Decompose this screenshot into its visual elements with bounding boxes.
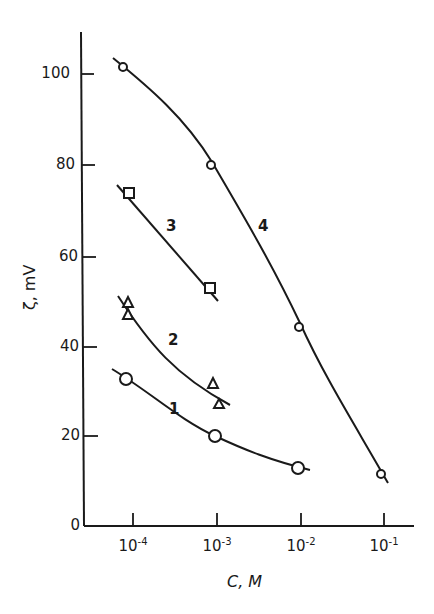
y-tick-label-80: 80 [35,155,75,173]
y-tick-label-100: 100 [30,64,70,82]
x-tick-label-1e-4: 10-4 [108,536,158,555]
series-2 [118,296,230,408]
y-tick-label-40: 40 [39,337,79,355]
y-tick-label-60: 60 [38,247,78,265]
y-tick-label-0: 0 [40,516,80,534]
curve-label-2: 2 [168,331,178,349]
series-4 [113,58,388,483]
y-tick-label-20: 20 [40,426,80,444]
x-tick-label-1e-2: 10-2 [276,536,326,555]
curve-label-4: 4 [258,217,268,235]
x-tick-label-1e-3: 10-3 [192,536,242,555]
x-axis-label: C, M [227,572,262,591]
x-tick-label-1e-1: 10-1 [359,536,409,555]
series-3 [117,185,218,301]
curve-label-3: 3 [166,217,176,235]
x-ticks [133,513,384,526]
curve-label-1: 1 [169,400,179,418]
y-axis [81,32,84,526]
y-ticks [82,74,98,436]
y-axis-label: ζ, mV [20,265,39,310]
